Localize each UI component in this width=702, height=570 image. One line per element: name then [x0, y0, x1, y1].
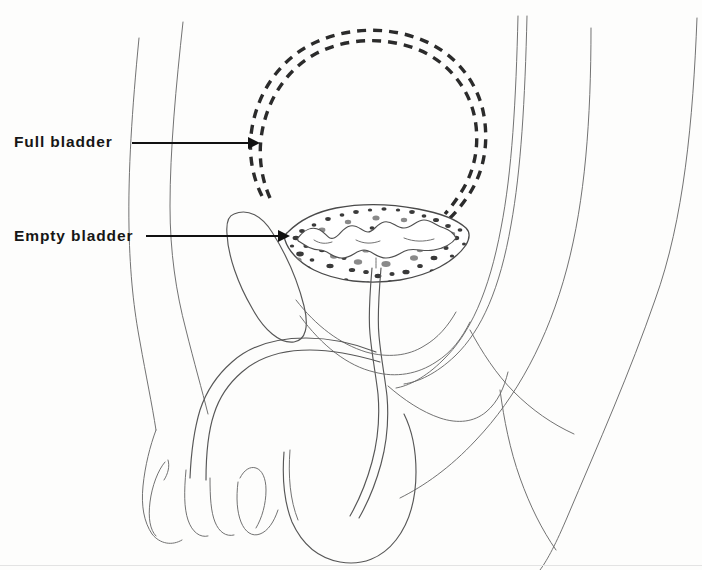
- pelvic-floor-group: [296, 300, 508, 421]
- anterior-abdominal-wall-group: [129, 22, 208, 430]
- abdominal-wall-inner: [170, 22, 208, 414]
- corona-fold: [237, 482, 278, 535]
- scan-bottom-edge-artifact: [0, 565, 702, 566]
- urethra-wall-left: [350, 268, 379, 516]
- urethra-wall-right: [359, 268, 388, 518]
- arrowhead-full-bladder: [248, 137, 260, 149]
- penis-group: [142, 338, 380, 543]
- glans-outer-contour: [142, 430, 182, 543]
- sacrum-outer-contour: [540, 18, 697, 570]
- pelvic-floor-upper: [296, 300, 456, 355]
- urethra-group: [350, 258, 388, 518]
- gluteal-contour: [470, 330, 574, 434]
- anatomy-illustration-svg: [0, 0, 702, 570]
- rectum-anterior-wall: [396, 16, 518, 388]
- posterior-contours-group: [396, 16, 697, 570]
- full-bladder-dashed-outer: [250, 30, 485, 218]
- bladder-diagram-figure: Full bladder Empty bladder: [0, 0, 702, 570]
- label-empty-bladder: Empty bladder: [14, 228, 133, 244]
- scrotum-left-wall: [289, 450, 298, 520]
- penis-shaft-right-edge: [210, 478, 234, 535]
- perineum-contour: [300, 316, 470, 375]
- leader-lines-group: [132, 137, 290, 242]
- penis-ventral-contour: [206, 350, 380, 480]
- scrotum-outline: [283, 414, 416, 563]
- empty-bladder-group: [285, 205, 469, 285]
- scrotum-group: [283, 414, 416, 563]
- glans-left-fold: [149, 462, 165, 536]
- lower-contours-group: [470, 330, 574, 550]
- thigh-contour: [500, 390, 556, 550]
- label-full-bladder: Full bladder: [14, 134, 113, 150]
- bulbourethral-contour: [388, 372, 508, 421]
- penis-dorsal-contour: [190, 338, 376, 478]
- prepuce-contour: [240, 467, 266, 528]
- penis-shaft-left-edge: [185, 470, 208, 536]
- full-bladder-dashed-inner: [260, 41, 476, 214]
- full-bladder-outline-group: [250, 30, 485, 218]
